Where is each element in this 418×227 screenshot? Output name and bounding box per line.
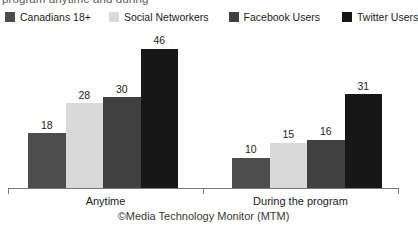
- bar-value-label: 15: [270, 129, 308, 140]
- bar-value-label: 28: [66, 90, 104, 101]
- bar: [103, 97, 141, 188]
- legend-item-canadians-18-plus: Canadians 18+: [5, 12, 91, 23]
- bar: [232, 158, 270, 188]
- bar-value-label: 16: [307, 126, 345, 137]
- bar: [66, 103, 104, 188]
- legend-swatch-icon-canadians-18-plus: [5, 12, 15, 22]
- bar-value-label: 18: [28, 120, 66, 131]
- bar: [28, 133, 66, 188]
- legend-label: Canadians 18+: [20, 12, 91, 23]
- bar: [307, 140, 345, 188]
- legend-item-social-networkers: Social Networkers: [109, 12, 209, 23]
- chart-legend: Canadians 18+ Social Networkers Facebook…: [0, 9, 407, 25]
- chart-credit-attribution: ©Media Technology Monitor (MTM): [0, 211, 407, 222]
- axis-tick: [203, 188, 204, 194]
- axis-tick: [398, 188, 399, 194]
- bar: [345, 94, 383, 188]
- bar-value-label: 10: [232, 144, 270, 155]
- legend-label: Twitter Users: [357, 12, 418, 23]
- axis-tick: [8, 188, 9, 194]
- bar: [141, 49, 179, 188]
- bar-value-label: 30: [103, 84, 141, 95]
- legend-label: Social Networkers: [124, 12, 209, 23]
- legend-item-facebook-users: Facebook Users: [229, 12, 320, 23]
- bar-value-label: 46: [141, 35, 179, 46]
- legend-swatch-icon-twitter-users: [342, 12, 352, 22]
- chart-x-axis: [0, 188, 407, 195]
- legend-swatch-icon-facebook-users: [229, 12, 239, 22]
- legend-swatch-icon-social-networkers: [109, 12, 119, 22]
- category-label-during-the-program: During the program: [203, 196, 398, 207]
- legend-item-twitter-users: Twitter Users: [342, 12, 418, 23]
- category-label-anytime: Anytime: [8, 196, 203, 207]
- clipped-caption-text: program anytime and during: [2, 0, 148, 5]
- legend-label: Facebook Users: [244, 12, 320, 23]
- bar-value-label: 31: [345, 81, 383, 92]
- chart-plot-area: 1828304610151631: [0, 28, 407, 188]
- bar: [270, 143, 308, 188]
